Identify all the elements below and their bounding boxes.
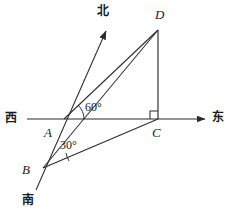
compass-label-west: 西	[5, 112, 17, 124]
point-label-B: B	[22, 163, 30, 176]
point-label-D: D	[155, 8, 164, 21]
right-angle-marker	[150, 111, 158, 119]
compass-label-south: 南	[22, 194, 34, 206]
angle-label-60: 60°	[85, 101, 102, 113]
point-label-C: C	[152, 126, 161, 139]
geometry-figure: A B C D 北 南 西 东 60° 30°	[0, 0, 234, 216]
compass-label-east: 东	[212, 111, 224, 123]
angle-arc-60	[78, 105, 84, 119]
compass-label-north: 北	[97, 5, 109, 17]
geometry-canvas	[0, 0, 234, 216]
angle-label-30: 30°	[60, 139, 77, 151]
point-label-A: A	[44, 126, 52, 139]
